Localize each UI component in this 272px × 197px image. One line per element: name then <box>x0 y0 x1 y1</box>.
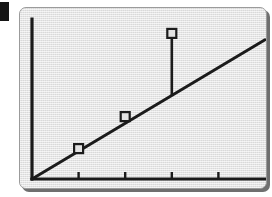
data-point-marker-3 <box>167 29 176 38</box>
trend-line <box>32 40 265 179</box>
data-point-marker-2 <box>121 112 130 121</box>
scatter-plot-svg <box>20 8 266 188</box>
chart-panel-wrapper <box>19 7 271 195</box>
chart-panel <box>19 7 267 189</box>
black-corner-marker <box>0 2 9 21</box>
figure-root <box>0 0 272 197</box>
data-point-marker-1 <box>74 144 83 153</box>
